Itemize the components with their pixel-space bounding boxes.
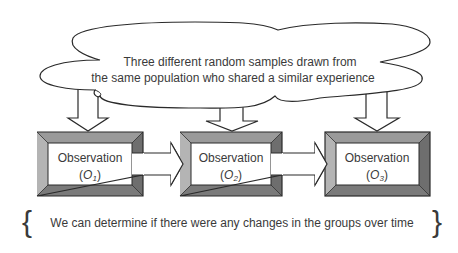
down-arrow-3	[355, 90, 399, 131]
observation-label-2: Observation	[199, 151, 264, 165]
observation-symbol-2: (O2)	[220, 168, 242, 183]
cloud-text-line-1: Three different random samples drawn fro…	[123, 55, 356, 69]
left-brace: {	[22, 205, 32, 238]
cloud-text-line-2: the same population who shared a similar…	[91, 71, 375, 85]
down-arrow-2	[206, 105, 258, 131]
observation-symbol-1: (O1)	[79, 168, 101, 183]
observation-symbol-3: (O3)	[366, 168, 388, 183]
observation-label-3: Observation	[345, 151, 410, 165]
right-brace: }	[432, 205, 442, 238]
observation-label-1: Observation	[58, 151, 123, 165]
diagram-canvas: Three different random samples drawn fro…	[0, 0, 458, 253]
conclusion-text: We can determine if there were any chang…	[50, 216, 414, 230]
